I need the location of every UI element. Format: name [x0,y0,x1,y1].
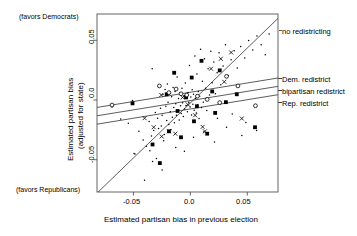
marker-dot [164,134,166,136]
marker-x [219,57,223,61]
marker-filled-square [179,135,183,139]
line-label-rep-redistrict: Rep. redistrict [282,100,328,108]
marker-dot [151,68,153,70]
marker-dot [240,46,242,48]
marker-dot [248,40,250,42]
marker-dot [181,88,183,90]
marker-dot [178,119,180,121]
marker-dot [233,50,235,52]
marker-dot [172,87,174,89]
marker-open-circle [167,91,171,95]
marker-open-circle [179,92,183,96]
marker-dot [236,67,238,69]
data-layer [97,18,278,193]
marker-filled-square [253,125,257,129]
marker-dot [215,93,217,95]
y-tick-label-1: 0.0 [88,88,96,98]
marker-dot [149,150,151,152]
marker-x [152,125,156,129]
marker-dot [213,61,215,63]
marker-dot [184,108,186,110]
marker-open-circle [205,98,209,102]
marker-filled-square [158,161,162,165]
marker-dot [152,161,154,163]
y-tick-label-2: -0.05 [88,146,96,163]
marker-dot [180,113,182,115]
marker-dot [192,103,194,105]
marker-filled-square [131,101,135,105]
marker-x [193,113,197,117]
marker-filled-square [190,76,194,80]
marker-dot [201,107,203,109]
marker-dot [222,65,224,67]
marker-dot [214,141,216,143]
marker-dot [203,101,205,103]
marker-dot [167,83,169,85]
marker-dot [194,55,196,57]
marker-filled-square [151,143,155,147]
marker-dot [256,130,258,132]
marker-x [229,50,233,54]
fit-line-no-redistricting [97,18,278,193]
marker-open-circle [110,103,114,107]
marker-filled-square [235,92,239,96]
marker-dot [175,147,177,149]
marker-filled-square [224,100,228,104]
x-tick-label-0: -0.05 [123,198,140,206]
marker-dot [144,180,146,182]
marker-dot [183,116,185,118]
marker-dot [142,139,144,141]
marker-filled-square [192,119,196,123]
marker-dot [196,73,198,75]
marker-dot [161,115,163,117]
marker-dot [166,120,168,122]
marker-filled-square [213,111,217,115]
marker-dot [241,135,243,137]
marker-dot [164,89,166,91]
marker-open-circle [157,84,161,88]
marker-open-circle [174,87,178,91]
marker-dot [184,150,186,152]
marker-filled-square [195,104,199,108]
marker-filled-square [200,59,204,63]
marker-dot [132,100,134,102]
marker-filled-square [218,68,222,72]
marker-open-circle [225,74,229,78]
line-label-bipartisan-redistrict: bipartisan redistrict [282,88,345,96]
marker-dot [153,130,155,132]
marker-dot [193,137,195,139]
marker-x [240,117,244,121]
marker-dot [182,102,184,104]
marker-x [181,95,185,99]
marker-dot [200,48,202,50]
marker-dot [180,105,182,107]
marker-dot [198,91,200,93]
marker-dot [174,122,176,124]
marker-dot [158,128,160,130]
marker-dot [165,105,167,107]
marker-dot [209,94,211,96]
marker-filled-square [210,90,214,94]
marker-dot [176,115,178,117]
marker-dot [218,52,220,54]
marker-dot [171,96,173,98]
marker-dot [128,123,130,125]
y-axis-title-line1: Estimated partisan bias [67,78,75,161]
marker-dot [231,113,233,115]
marker-open-circle [185,93,189,97]
marker-dot [191,114,193,116]
marker-open-circle [254,104,258,108]
marker-dot [148,121,150,123]
marker-x [209,67,213,71]
marker-dot [176,76,178,78]
marker-x [203,129,207,133]
marker-dot [202,80,204,82]
marker-dot [190,96,192,98]
marker-dot [260,44,262,46]
marker-dot [244,57,246,59]
marker-dot [161,169,163,171]
marker-dot [225,44,227,46]
y-axis-title-line2: (adjusted for state) [77,82,85,149]
marker-dot [189,65,191,67]
marker-dot [168,124,170,126]
